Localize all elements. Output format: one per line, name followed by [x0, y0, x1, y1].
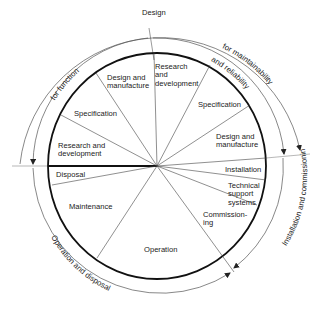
life-cycle-diagram: for function for maintainability and rel…	[0, 0, 325, 314]
segment-installation: Installation	[225, 166, 261, 174]
segment-research-development-left: Research and development	[58, 142, 105, 159]
segment-design-manufacture-right: Design and manufacture	[216, 133, 258, 150]
segment-disposal: Disposal	[56, 171, 85, 179]
segment-technical-support: Technical support systems	[228, 182, 260, 207]
segment-research-development-top: Research and development	[155, 63, 198, 88]
segment-commissioning: Commission- ing	[203, 211, 247, 228]
for-maintainability-label: for maintainability	[221, 42, 275, 87]
installation-commissioning-label: Installation and commissioning	[0, 0, 309, 247]
segment-design-manufacture-left: Design and manufacture	[107, 74, 149, 91]
design-divider	[149, 28, 154, 60]
segment-specification-left: Specification	[74, 110, 117, 118]
for-function-label: for function	[49, 66, 81, 102]
segment-maintenance: Maintenance	[69, 203, 112, 211]
segment-operation: Operation	[144, 246, 177, 254]
design-label: Design	[142, 9, 166, 17]
segment-specification-right: Specification	[198, 101, 241, 109]
diagram-graphics: for function for maintainability and rel…	[0, 0, 325, 314]
operation-disposal-arc	[33, 168, 230, 293]
